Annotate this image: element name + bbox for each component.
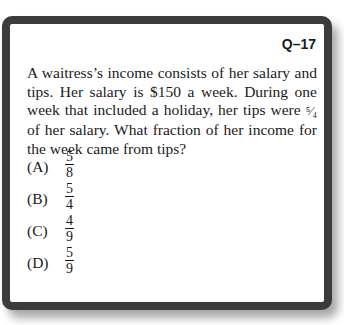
numerator: 5 [66,246,73,259]
denominator: 8 [66,166,73,179]
choice-fraction: 5 4 [65,182,74,211]
numerator: 5 [66,182,73,195]
denominator: 4 [66,198,73,211]
stem-text-1: A waitress’s income consists of her sala… [27,64,317,118]
question-number: Q–17 [282,36,316,52]
tips-fraction: ⁵⁄₄ [306,103,317,118]
choice-fraction: 4 9 [65,214,74,243]
numerator: 4 [66,214,73,227]
choice-letter: (D) [27,254,49,272]
denominator: 9 [66,262,73,275]
denominator: 9 [66,230,73,243]
choice-fraction: 5 8 [65,150,74,179]
choice-letter: (A) [27,158,49,176]
choice-fraction: 5 9 [65,246,74,275]
choice-letter: (B) [27,190,48,208]
question-stem: A waitress’s income consists of her sala… [27,64,317,159]
numerator: 5 [66,150,73,163]
question-card: Q–17 A waitress’s income consists of her… [2,16,332,310]
choice-letter: (C) [27,222,48,240]
